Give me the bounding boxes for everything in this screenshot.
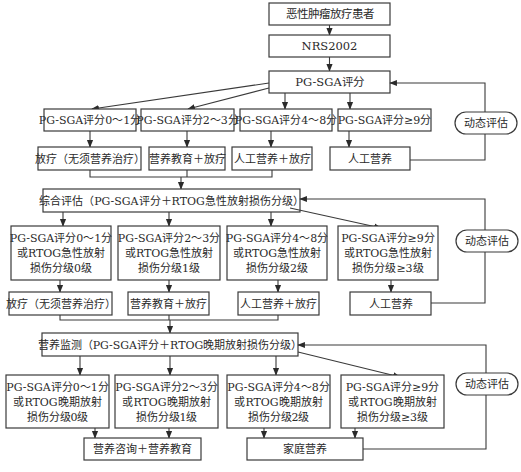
stage1-assessment-label: PG-SGA评分 xyxy=(295,75,364,89)
stage2-action-1: 营养教育＋放疗 xyxy=(128,292,209,315)
svg-text:损伤分级1级: 损伤分级1级 xyxy=(136,410,198,424)
svg-text:或RTOG急性放射: 或RTOG急性放射 xyxy=(125,246,213,260)
stage3-grade-1: PG-SGA评分2～3分 或RTOG晚期放射 损伤分级1级 xyxy=(115,375,218,428)
svg-text:人工营养: 人工营养 xyxy=(369,297,413,311)
svg-text:PG-SGA评分≥9分: PG-SGA评分≥9分 xyxy=(346,381,440,394)
nutrition-flowchart: 恶性肿瘤放疗患者 NRS2002 PG-SGA评分 PG-SGA评分0～1分 P… xyxy=(0,0,521,472)
stage2-feedback-label: 动态评估 xyxy=(465,235,509,248)
stage3-grade-3: PG-SGA评分≥9分 或RTOG晚期放射 损伤分级≥3级 xyxy=(341,375,444,428)
stage2-action-3: 人工营养 xyxy=(350,292,431,315)
stage1-grade-2: PG-SGA评分4～8分 xyxy=(235,109,337,131)
svg-text:PG-SGA评分0～1分: PG-SGA评分0～1分 xyxy=(39,114,141,127)
svg-text:损伤分级≥3级: 损伤分级≥3级 xyxy=(352,261,423,275)
svg-text:或RTOG急性放射: 或RTOG急性放射 xyxy=(17,246,105,260)
stage3-grade-0: PG-SGA评分0～1分 或RTOG晚期放射 损伤分级0级 xyxy=(6,375,109,428)
stage2-grade-1: PG-SGA评分2～3分 或RTOG急性放射 损伤分级1级 xyxy=(118,226,220,280)
stage2-assessment-label: 综合评估（PG-SGA评分＋RTOG急性放射损伤分级） xyxy=(39,194,304,208)
stage3-grade-2: PG-SGA评分4～8分 或RTOG晚期放射 损伤分级2级 xyxy=(227,375,330,428)
svg-text:损伤分级0级: 损伤分级0级 xyxy=(30,261,92,275)
svg-text:人工营养: 人工营养 xyxy=(348,152,392,166)
stage2-assessment-node: 综合评估（PG-SGA评分＋RTOG急性放射损伤分级） xyxy=(39,189,304,212)
svg-text:营养咨询＋营养教育: 营养咨询＋营养教育 xyxy=(93,442,192,456)
svg-text:损伤分级1级: 损伤分级1级 xyxy=(138,261,200,275)
svg-text:或RTOG晚期放射: 或RTOG晚期放射 xyxy=(348,395,436,409)
svg-text:PG-SGA评分4～8分: PG-SGA评分4～8分 xyxy=(226,232,328,245)
stage3-action-1: 家庭营养 xyxy=(247,438,363,460)
svg-text:或RTOG晚期放射: 或RTOG晚期放射 xyxy=(122,395,210,409)
svg-text:PG-SGA评分0～1分: PG-SGA评分0～1分 xyxy=(10,232,112,245)
stage3-feedback-label: 动态评估 xyxy=(465,378,509,391)
screening-node: NRS2002 xyxy=(269,35,390,57)
stage2-grade-3: PG-SGA评分≥9分 或RTOG急性放射 损伤分级≥3级 xyxy=(338,226,438,280)
svg-text:或RTOG晚期放射: 或RTOG晚期放射 xyxy=(13,395,101,409)
stage1-action-1: 营养教育＋放疗 xyxy=(149,147,226,170)
svg-text:PG-SGA评分≥9分: PG-SGA评分≥9分 xyxy=(338,114,432,127)
stage2-action-0: 放疗（无须营养治疗） xyxy=(6,292,116,315)
svg-text:放疗（无须营养治疗）: 放疗（无须营养治疗） xyxy=(35,152,145,166)
stage3-assessment-node: 营养监测（PG-SGA评分＋RTOG晚期放射损伤分级） xyxy=(38,333,303,356)
svg-text:PG-SGA评分2～3分: PG-SGA评分2～3分 xyxy=(115,381,217,394)
svg-text:营养教育＋放疗: 营养教育＋放疗 xyxy=(130,297,207,311)
stage2-grade-2: PG-SGA评分4～8分 或RTOG急性放射 损伤分级2级 xyxy=(226,226,328,280)
start-label: 恶性肿瘤放疗患者 xyxy=(286,7,374,21)
svg-text:PG-SGA评分2～3分: PG-SGA评分2～3分 xyxy=(136,114,238,127)
svg-text:人工营养＋放疗: 人工营养＋放疗 xyxy=(240,297,317,311)
svg-text:放疗（无须营养治疗）: 放疗（无须营养治疗） xyxy=(6,297,116,311)
start-node: 恶性肿瘤放疗患者 xyxy=(269,3,390,25)
stage1-feedback-pill: 动态评估 xyxy=(455,112,517,134)
svg-text:损伤分级2级: 损伤分级2级 xyxy=(246,261,308,275)
stage1-grade-3: PG-SGA评分≥9分 xyxy=(338,109,432,131)
svg-text:或RTOG急性放射: 或RTOG急性放射 xyxy=(344,246,432,260)
svg-text:营养教育＋放疗: 营养教育＋放疗 xyxy=(149,152,226,166)
stage2-grade-0: PG-SGA评分0～1分 或RTOG急性放射 损伤分级0级 xyxy=(10,226,112,280)
svg-text:PG-SGA评分4～8分: PG-SGA评分4～8分 xyxy=(227,381,329,394)
svg-text:损伤分级0级: 损伤分级0级 xyxy=(27,410,89,424)
stage1-feedback-label: 动态评估 xyxy=(464,117,508,130)
stage3-action-0: 营养咨询＋营养教育 xyxy=(84,438,201,460)
svg-text:家庭营养: 家庭营养 xyxy=(283,442,327,456)
stage3-feedback-pill: 动态评估 xyxy=(456,373,518,395)
svg-text:损伤分级≥3级: 损伤分级≥3级 xyxy=(357,410,428,424)
svg-text:PG-SGA评分0～1分: PG-SGA评分0～1分 xyxy=(6,381,108,394)
screening-label: NRS2002 xyxy=(302,39,358,53)
stage3-assessment-label: 营养监测（PG-SGA评分＋RTOG晚期放射损伤分级） xyxy=(38,338,303,352)
stage2-feedback-pill: 动态评估 xyxy=(456,230,518,252)
svg-text:PG-SGA评分4～8分: PG-SGA评分4～8分 xyxy=(235,114,337,127)
stage1-assessment-node: PG-SGA评分 xyxy=(269,71,390,93)
stage1-grade-0: PG-SGA评分0～1分 xyxy=(39,109,141,131)
svg-text:PG-SGA评分≥9分: PG-SGA评分≥9分 xyxy=(341,232,435,245)
stage2-action-2: 人工营养＋放疗 xyxy=(238,292,319,315)
svg-text:人工营养＋放疗: 人工营养＋放疗 xyxy=(234,152,311,166)
stage1-grade-1: PG-SGA评分2～3分 xyxy=(136,109,238,131)
stage1-action-0: 放疗（无须营养治疗） xyxy=(35,147,145,170)
svg-text:损伤分级2级: 损伤分级2级 xyxy=(248,410,310,424)
svg-text:或RTOG晚期放射: 或RTOG晚期放射 xyxy=(234,395,322,409)
stage1-action-2: 人工营养＋放疗 xyxy=(232,147,312,170)
stage1-action-3: 人工营养 xyxy=(330,147,410,170)
svg-text:PG-SGA评分2～3分: PG-SGA评分2～3分 xyxy=(118,232,220,245)
svg-text:或RTOG急性放射: 或RTOG急性放射 xyxy=(233,246,321,260)
